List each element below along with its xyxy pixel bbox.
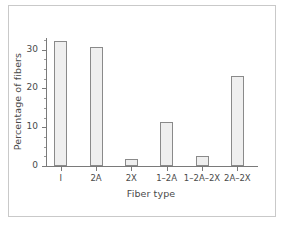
y-tick-minor — [44, 118, 47, 119]
bar — [90, 47, 103, 166]
bar-chart: Percentage of fibers Fiber type 0102030 … — [0, 0, 285, 227]
y-tick-major — [42, 88, 46, 89]
x-tick — [167, 167, 168, 171]
x-tick — [96, 167, 97, 171]
y-axis-line — [46, 38, 47, 167]
x-tick — [131, 167, 132, 171]
y-tick-major — [42, 127, 46, 128]
bar — [231, 76, 244, 166]
y-tick-label: 30 — [20, 44, 38, 54]
y-tick-minor — [44, 137, 47, 138]
y-tick-label: 20 — [20, 82, 38, 92]
bar — [54, 41, 67, 166]
y-axis-title: Percentage of fibers — [12, 47, 23, 157]
y-tick-minor — [44, 69, 47, 70]
x-tick — [237, 167, 238, 171]
x-tick — [202, 167, 203, 171]
y-tick-minor — [44, 108, 47, 109]
x-tick-label: 1–2A–2X — [184, 173, 220, 183]
bar — [196, 156, 209, 166]
figure: Percentage of fibers Fiber type 0102030 … — [0, 0, 285, 227]
bar — [125, 159, 138, 166]
y-tick-minor — [44, 79, 47, 80]
x-tick-label: I — [59, 173, 62, 183]
x-tick-label: 2A–2X — [224, 173, 251, 183]
y-tick-minor — [44, 156, 47, 157]
x-tick — [61, 167, 62, 171]
x-tick-label: 2A — [90, 173, 101, 183]
y-tick-minor — [44, 40, 47, 41]
x-tick-label: 2X — [126, 173, 137, 183]
y-tick-minor — [44, 147, 47, 148]
bar — [160, 122, 173, 166]
x-axis-line — [46, 166, 258, 167]
y-tick-minor — [44, 98, 47, 99]
y-tick-major — [42, 166, 46, 167]
y-tick-label: 0 — [20, 160, 38, 170]
x-tick-label: 1–2A — [156, 173, 177, 183]
x-axis-title: Fiber type — [45, 188, 257, 199]
y-tick-label: 10 — [20, 121, 38, 131]
y-tick-minor — [44, 59, 47, 60]
y-tick-major — [42, 50, 46, 51]
